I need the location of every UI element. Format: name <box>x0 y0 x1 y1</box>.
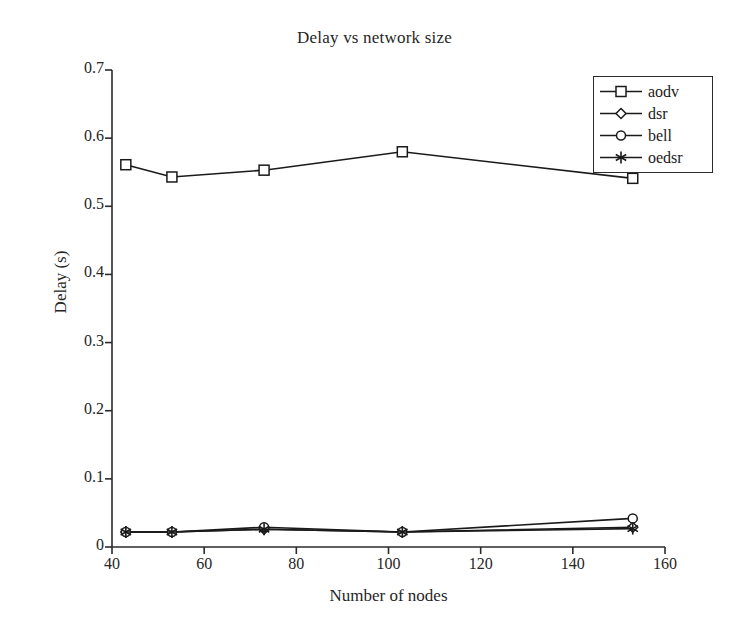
data-point-marker <box>121 160 131 170</box>
legend-item-oedsr: oedsr <box>594 146 712 169</box>
data-series-group <box>121 147 638 538</box>
data-point-marker <box>167 172 177 182</box>
legend-label: dsr <box>648 103 668 124</box>
legend-marker-circle-icon <box>599 124 643 147</box>
chart-figure: Delay vs network size Delay (s) Number o… <box>0 0 749 629</box>
data-point-marker <box>617 131 626 140</box>
legend: aodvdsrbelloedsr <box>593 76 713 173</box>
legend-label: bell <box>648 125 672 146</box>
legend-marker-square-icon <box>599 80 643 103</box>
axes-frame <box>105 70 665 554</box>
legend-label: aodv <box>648 81 679 102</box>
data-point-marker <box>259 165 269 175</box>
legend-marker-asterisk-icon <box>599 146 643 169</box>
data-point-marker <box>616 87 626 97</box>
series-line <box>126 152 633 179</box>
series-bell <box>121 514 637 537</box>
data-point-marker <box>616 109 626 119</box>
legend-item-bell: bell <box>594 124 712 147</box>
data-point-marker <box>397 147 407 157</box>
legend-item-dsr: dsr <box>594 102 712 125</box>
series-aodv <box>121 147 638 184</box>
legend-item-aodv: aodv <box>594 80 712 103</box>
legend-marker-diamond-icon <box>599 102 643 125</box>
data-point-marker <box>628 514 637 523</box>
legend-label: oedsr <box>648 147 683 168</box>
data-point-marker <box>628 173 638 183</box>
